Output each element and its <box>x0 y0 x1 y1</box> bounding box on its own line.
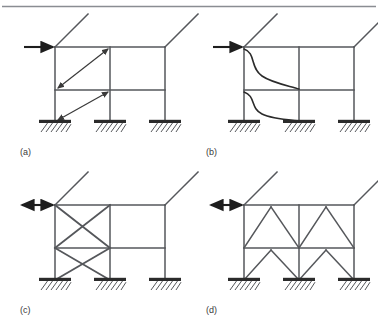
panel-d-label: (d) <box>206 305 217 315</box>
panel-c-label: (c) <box>20 305 31 315</box>
panel-b-label: (b) <box>206 147 217 157</box>
figure-root: (a) (b) <box>0 0 378 335</box>
panel-a-label: (a) <box>20 147 31 157</box>
frame-systems-figure: (a) (b) <box>0 0 378 335</box>
figure-background <box>0 0 378 335</box>
